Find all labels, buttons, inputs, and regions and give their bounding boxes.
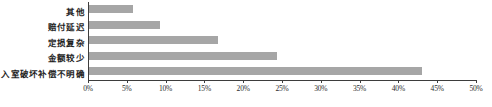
x-axis-tick	[88, 80, 89, 83]
x-axis-tick-label: 35%	[353, 84, 366, 93]
bar-rushi-pohuai	[88, 67, 422, 75]
y-axis-label: 入室破坏补偿不明确	[1, 67, 85, 79]
x-axis-tick-label: 40%	[392, 84, 405, 93]
x-axis-tick-label: 20%	[237, 84, 250, 93]
bar-jine-jiaoshao	[88, 52, 277, 60]
x-axis-tick-label: 45%	[431, 84, 444, 93]
y-axis-line	[88, 2, 89, 80]
bar-chart: 其他 赔付延迟 定损复杂 金额较少 入室破坏补偿不明确 0%5%10%15%20…	[0, 0, 492, 107]
y-axis-label: 赔付延迟	[48, 20, 85, 32]
bar-row	[88, 18, 476, 34]
x-axis-tick	[166, 80, 167, 83]
y-axis-labels: 其他 赔付延迟 定损复杂 金额较少 入室破坏补偿不明确	[0, 2, 85, 80]
x-axis-tick	[437, 80, 438, 83]
bar-dingsun-fuza	[88, 36, 218, 44]
x-axis-tick	[243, 80, 244, 83]
bar-row	[88, 2, 476, 18]
x-axis-tick-label: 30%	[314, 84, 327, 93]
bar-peifu-yanchi	[88, 21, 160, 29]
x-axis-tick	[204, 80, 205, 83]
y-axis-label: 其他	[66, 5, 85, 17]
x-axis-tick-label: 50%	[469, 84, 482, 93]
y-axis-label: 定损复杂	[48, 36, 85, 48]
x-axis-tick	[360, 80, 361, 83]
x-axis-tick-label: 25%	[275, 84, 288, 93]
x-axis-tick-label: 5%	[122, 84, 132, 93]
bar-qita	[88, 5, 133, 13]
x-axis-tick	[321, 80, 322, 83]
x-axis-tick	[282, 80, 283, 83]
bar-row	[88, 33, 476, 49]
x-axis-tick	[398, 80, 399, 83]
bar-row	[88, 64, 476, 80]
x-axis-tick	[127, 80, 128, 83]
x-axis-tick-label: 10%	[159, 84, 172, 93]
x-axis-tick-label: 15%	[198, 84, 211, 93]
bar-row	[88, 49, 476, 65]
plot-area	[88, 2, 476, 80]
x-axis-tick-label: 0%	[83, 84, 93, 93]
x-axis-tick	[476, 80, 477, 83]
y-axis-label: 金额较少	[48, 51, 85, 63]
